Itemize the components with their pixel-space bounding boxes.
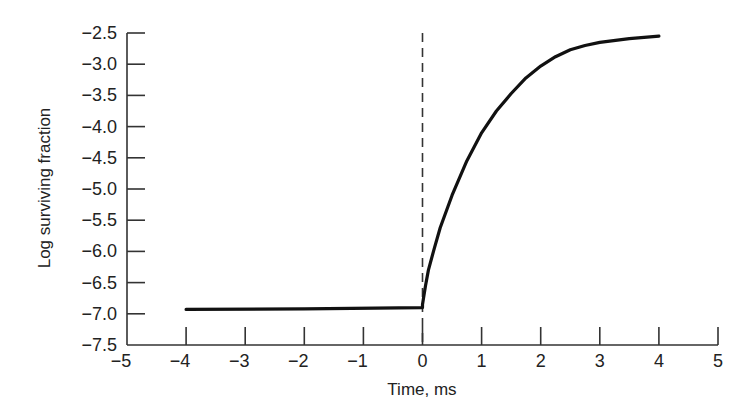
x-tick-label: 3 xyxy=(595,351,605,371)
x-axis-title: Time, ms xyxy=(387,380,456,399)
y-axis-ticks: −2.5−3.0−3.5−4.0−4.5−5.0−5.5−6.0−6.5−7.0… xyxy=(81,23,145,355)
x-axis-ticks: −5−4−3−2−1012345 xyxy=(111,327,723,371)
x-tick-label: −3 xyxy=(229,351,250,371)
y-tick-label: −7.0 xyxy=(81,304,117,324)
y-tick-label: −6.5 xyxy=(81,273,117,293)
y-tick-label: −2.5 xyxy=(81,23,117,43)
y-tick-label: −3.5 xyxy=(81,85,117,105)
x-tick-label: 5 xyxy=(713,351,723,371)
y-tick-label: −5.0 xyxy=(81,179,117,199)
x-tick-label: −5 xyxy=(111,351,132,371)
y-tick-label: −3.0 xyxy=(81,54,117,74)
y-tick-label: −4.5 xyxy=(81,148,117,168)
x-tick-label: −4 xyxy=(170,351,191,371)
y-tick-label: −5.5 xyxy=(81,210,117,230)
y-axis-title: Log surviving fraction xyxy=(35,108,54,269)
y-tick-label: −6.0 xyxy=(81,241,117,261)
y-tick-label: −4.0 xyxy=(81,117,117,137)
x-tick-label: −2 xyxy=(288,351,309,371)
x-tick-label: 2 xyxy=(536,351,546,371)
x-tick-label: 0 xyxy=(417,351,427,371)
x-tick-label: 4 xyxy=(654,351,664,371)
x-tick-label: −1 xyxy=(347,351,368,371)
x-tick-label: 1 xyxy=(477,351,487,371)
chart-container: −2.5−3.0−3.5−4.0−4.5−5.0−5.5−6.0−6.5−7.0… xyxy=(0,0,748,413)
